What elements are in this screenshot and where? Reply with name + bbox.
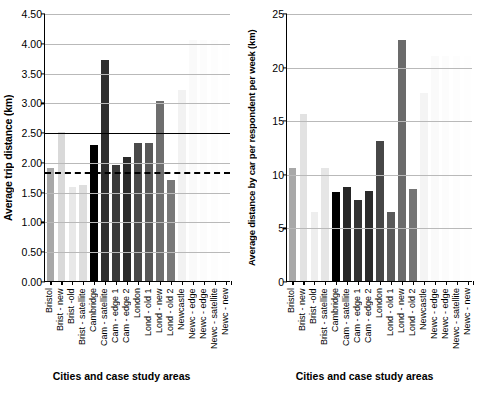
- bar: [211, 40, 219, 281]
- x-tick-mark: [435, 281, 436, 285]
- x-axis-label: Newcastle: [418, 288, 428, 356]
- x-tick-mark: [231, 281, 232, 285]
- x-tick-mark: [94, 281, 95, 285]
- x-tick-mark: [127, 281, 128, 285]
- bar: [156, 101, 164, 281]
- bar: [321, 168, 329, 281]
- x-axis-label: Lond - new: [396, 288, 406, 356]
- x-axis-label: Newc - edge: [198, 288, 208, 356]
- bar: [167, 180, 175, 281]
- y-tick-label: 1.50: [22, 187, 42, 199]
- x-tick-mark: [193, 281, 194, 285]
- y-axis-title-left: Average trip distance (km): [2, 38, 16, 278]
- bar: [134, 143, 142, 281]
- y-tick-label: 15: [272, 115, 284, 127]
- y-tick-label: 4.50: [22, 8, 42, 20]
- x-axis-label: Cambridge: [88, 288, 98, 356]
- x-tick-mark: [391, 281, 392, 285]
- bar: [431, 56, 439, 281]
- gridline: [287, 68, 472, 69]
- x-tick-mark: [138, 281, 139, 285]
- gridline: [45, 163, 230, 164]
- x-tick-mark: [402, 281, 403, 285]
- bar: [200, 40, 208, 281]
- x-tick-mark: [380, 281, 381, 285]
- x-tick-mark: [446, 281, 447, 285]
- bar: [289, 168, 297, 281]
- x-tick-mark: [314, 281, 315, 285]
- bar: [365, 191, 373, 281]
- x-axis-label: London: [374, 288, 384, 356]
- x-tick-mark: [116, 281, 117, 285]
- gridline: [45, 193, 230, 194]
- x-axis-label: Newc - edge: [187, 288, 197, 356]
- x-axis-label: Cam - satellite: [341, 288, 351, 356]
- x-tick-mark: [182, 281, 183, 285]
- bar: [409, 189, 417, 281]
- x-tick-mark: [424, 281, 425, 285]
- x-tick-mark: [171, 281, 172, 285]
- y-tick-label: 0.00: [22, 276, 42, 288]
- bar: [79, 185, 87, 281]
- gridline: [287, 121, 472, 122]
- x-tick-mark: [83, 281, 84, 285]
- x-tick-mark: [105, 281, 106, 285]
- bar: [300, 114, 308, 281]
- bar-group-left: [45, 14, 230, 281]
- panel-average-car-distance: Average distance by car per respondent p…: [243, 0, 486, 402]
- x-axis-label: Newc - new: [220, 288, 230, 356]
- gridline: [287, 14, 472, 15]
- bar-group-right: [287, 14, 472, 281]
- bar: [189, 40, 197, 281]
- y-axis-title-right: Average distance by car per respondent p…: [246, 12, 260, 284]
- gridline: [45, 14, 230, 15]
- plot-area-right: 0510152025: [286, 14, 472, 282]
- bar: [464, 56, 472, 281]
- x-tick-mark: [215, 281, 216, 285]
- bar: [453, 56, 461, 281]
- gridline: [45, 222, 230, 223]
- dashed-reference-line: [45, 172, 230, 174]
- gridline: [287, 228, 472, 229]
- x-tick-mark: [336, 281, 337, 285]
- y-tick-label: 20: [272, 62, 284, 74]
- panel-average-trip-distance: Average trip distance (km) 0.000.501.001…: [0, 0, 243, 402]
- x-tick-mark: [468, 281, 469, 285]
- x-tick-mark: [473, 281, 474, 285]
- gridline: [45, 252, 230, 253]
- bar: [442, 56, 450, 281]
- y-tick-label: 4.00: [22, 38, 42, 50]
- bar: [311, 212, 319, 281]
- y-tick-label: 0: [278, 276, 284, 288]
- x-axis-label: Brist - satellite: [77, 288, 87, 356]
- y-tick-label: 5: [278, 222, 284, 234]
- x-tick-mark: [226, 281, 227, 285]
- bar: [376, 141, 384, 281]
- bar: [90, 145, 98, 281]
- bar: [332, 192, 340, 281]
- x-axis-title-right: Cities and case study areas: [243, 370, 486, 382]
- x-tick-mark: [347, 281, 348, 285]
- gridline: [45, 44, 230, 45]
- gridline: [45, 103, 230, 104]
- x-axis-label: Brist - new: [297, 288, 307, 356]
- x-axis-label: Cam - edge 2: [363, 288, 373, 356]
- x-tick-mark: [413, 281, 414, 285]
- x-axis-label: Newc - new: [462, 288, 472, 356]
- x-tick-mark: [457, 281, 458, 285]
- x-tick-mark: [50, 281, 51, 285]
- x-axis-title-left: Cities and case study areas: [0, 370, 243, 382]
- bar: [398, 40, 406, 281]
- x-tick-mark: [303, 281, 304, 285]
- y-tick-label: 3.00: [22, 97, 42, 109]
- x-tick-mark: [369, 281, 370, 285]
- x-axis-label: Brist - satellite: [319, 288, 329, 356]
- x-axis-label: Newc - satellite: [209, 288, 219, 356]
- x-axis-label: Lond - old 2: [407, 288, 417, 356]
- bar: [101, 60, 109, 281]
- gridline: [287, 175, 472, 176]
- x-tick-mark: [358, 281, 359, 285]
- x-axis-label: Lond - new: [154, 288, 164, 356]
- x-tick-mark: [61, 281, 62, 285]
- x-tick-mark: [292, 281, 293, 285]
